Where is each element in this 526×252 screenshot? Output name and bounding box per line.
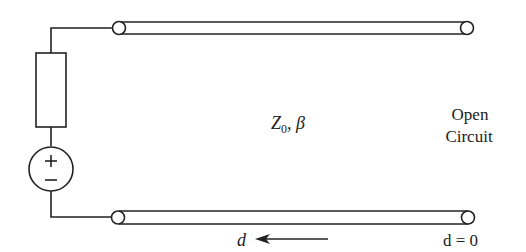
circuit-label: Circuit [445, 127, 492, 146]
top-feed-wire [51, 28, 112, 53]
bottom-feed-wire [51, 191, 112, 217]
open-label: Open [452, 105, 489, 124]
voltage-source [29, 147, 73, 191]
source-resistor [36, 53, 66, 127]
origin-label: d = 0 [443, 231, 478, 250]
impedance-label: Z0, β [271, 113, 305, 136]
bottom-conductor [112, 211, 475, 224]
top-conductor [113, 22, 474, 35]
transmission-line-diagram: Z0, β Open Circuit d d = 0 [0, 0, 526, 252]
position-d-label: d [237, 230, 247, 250]
plus-sign-icon [45, 155, 57, 167]
